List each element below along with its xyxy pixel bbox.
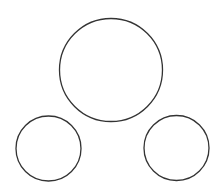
- small-circle-bottom-left: [16, 116, 81, 181]
- circles-diagram: [0, 0, 223, 194]
- small-circle-bottom-right: [144, 116, 209, 181]
- diagram-canvas: [0, 0, 223, 194]
- large-circle-top: [60, 19, 163, 122]
